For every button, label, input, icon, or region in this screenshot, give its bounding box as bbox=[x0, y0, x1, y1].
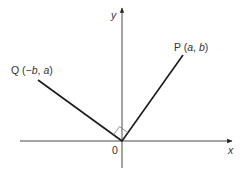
point-p-label: P (a, b) bbox=[174, 41, 208, 53]
coordinate-diagram: y x 0 P (a, b) Q (−b, a) bbox=[0, 0, 244, 177]
segment-op bbox=[122, 55, 183, 141]
right-angle-marker bbox=[114, 127, 128, 135]
x-axis-label: x bbox=[227, 144, 234, 156]
origin-label: 0 bbox=[112, 144, 118, 156]
point-q-label: Q (−b, a) bbox=[11, 64, 53, 76]
segment-oq bbox=[38, 80, 122, 141]
y-axis-label: y bbox=[110, 9, 117, 21]
